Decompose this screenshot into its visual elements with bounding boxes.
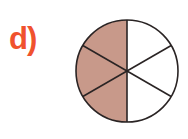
shaded-half	[76, 20, 127, 122]
fraction-circle	[0, 0, 188, 139]
